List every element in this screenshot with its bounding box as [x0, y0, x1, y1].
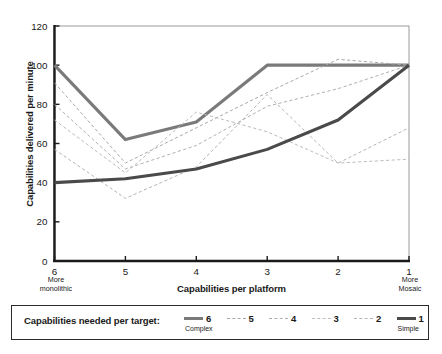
legend-item-2[interactable]: 2	[354, 313, 381, 324]
legend: Capabilities needed per target: 6Complex…	[11, 305, 429, 340]
line-chart-figure: 020406080100120 654321	[0, 0, 442, 354]
y-axis-title: Capabilities delivered per minute	[19, 49, 37, 219]
legend-sublabel-6: Complex	[185, 325, 213, 332]
legend-label: 3	[334, 313, 339, 324]
legend-label: 4	[291, 313, 296, 324]
legend-label: 6	[206, 313, 211, 324]
y-tick-label: 0	[42, 256, 48, 267]
legend-label: 2	[376, 313, 381, 324]
legend-item-3[interactable]: 3	[312, 313, 339, 324]
y-tick-label: 80	[37, 99, 48, 110]
x-tick-label: 4	[194, 266, 200, 277]
legend-title: Capabilities needed per target:	[24, 315, 160, 326]
plot-frame	[53, 25, 410, 262]
legend-label: 1	[419, 313, 424, 324]
chart-container: 020406080100120 654321 Capabilities deli…	[0, 0, 442, 354]
x-tick-label: 3	[264, 266, 270, 277]
legend-swatch-5-icon	[227, 318, 246, 319]
legend-swatch-2-icon	[354, 318, 373, 319]
x-axis-right-note: More Mosaic	[385, 275, 435, 293]
y-tick-label: 120	[31, 21, 48, 32]
legend-label: 5	[249, 313, 254, 324]
x-axis-title: Capabilities per platform	[54, 278, 409, 296]
x-tick-label: 5	[123, 266, 129, 277]
x-axis-left-note: More monolithic	[30, 275, 82, 293]
legend-swatch-4-icon	[269, 318, 288, 319]
legend-sublabel-1: Simple	[398, 325, 419, 332]
legend-swatch-3-icon	[312, 318, 331, 319]
y-tick-label: 40	[37, 177, 48, 188]
x-tick-label: 2	[335, 266, 340, 277]
legend-item-5[interactable]: 5	[227, 313, 254, 324]
legend-swatch-1-icon	[397, 317, 416, 320]
legend-item-1[interactable]: 1	[397, 313, 424, 324]
x-axis-tick-labels: 654321	[52, 266, 412, 277]
y-tick-label: 20	[37, 216, 48, 227]
legend-swatch-6-icon	[184, 317, 203, 320]
legend-item-6[interactable]: 6	[184, 313, 211, 324]
legend-item-4[interactable]: 4	[269, 313, 296, 324]
y-tick-label: 60	[37, 138, 48, 149]
